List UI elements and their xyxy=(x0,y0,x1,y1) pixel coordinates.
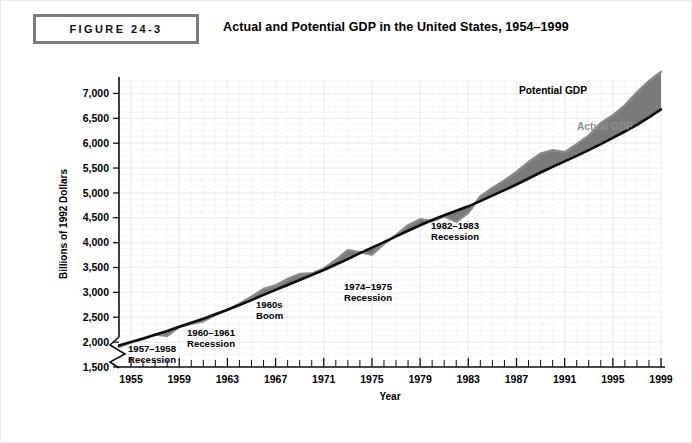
actual-gdp-series-label: Actual GDP xyxy=(577,121,633,132)
svg-text:1971: 1971 xyxy=(312,373,336,385)
svg-text:1,500: 1,500 xyxy=(83,361,109,373)
annotation-1957-1958-recession: 1957–1958 xyxy=(128,343,177,354)
gdp-line-chart: 1,5002,0002,5003,0003,5004,0004,5005,000… xyxy=(1,1,692,443)
svg-text:2,000: 2,000 xyxy=(83,336,109,348)
x-axis-title: Year xyxy=(379,391,400,402)
annotation-1960s-boom: 1960s xyxy=(256,299,283,310)
svg-text:4,500: 4,500 xyxy=(83,211,109,223)
annotation-1974-1975-recession: 1974–1975 xyxy=(344,281,393,292)
svg-text:5,000: 5,000 xyxy=(83,187,109,199)
svg-text:1975: 1975 xyxy=(360,373,384,385)
svg-text:6,000: 6,000 xyxy=(83,137,109,149)
svg-text:1999: 1999 xyxy=(649,373,673,385)
svg-text:3,000: 3,000 xyxy=(83,286,109,298)
y-axis-title: Billions of 1992 Dollars xyxy=(58,169,69,279)
y-axis xyxy=(110,77,125,368)
svg-text:7,000: 7,000 xyxy=(83,87,109,99)
gdp-gap-area xyxy=(119,72,661,347)
x-tick-labels: 1955195919631967197119751979198319871991… xyxy=(119,373,672,385)
svg-text:Boom: Boom xyxy=(256,310,283,321)
annotation-1982-1983-recession: 1982–1983 xyxy=(431,220,479,231)
svg-text:6,500: 6,500 xyxy=(83,112,109,124)
x-axis xyxy=(117,358,665,367)
svg-text:1979: 1979 xyxy=(408,373,432,385)
annotation-1960-1961-recession: 1960–1961 xyxy=(187,327,236,338)
svg-text:1991: 1991 xyxy=(553,373,577,385)
svg-text:4,000: 4,000 xyxy=(83,236,109,248)
svg-text:2,500: 2,500 xyxy=(83,311,109,323)
svg-text:1995: 1995 xyxy=(601,373,625,385)
svg-text:5,500: 5,500 xyxy=(83,162,109,174)
svg-text:1963: 1963 xyxy=(216,373,240,385)
svg-text:1983: 1983 xyxy=(457,373,481,385)
y-tick-labels: 1,5002,0002,5003,0003,5004,0004,5005,000… xyxy=(83,87,109,373)
chart-plot-area: 1,5002,0002,5003,0003,5004,0004,5005,000… xyxy=(1,1,692,443)
svg-text:Recession: Recession xyxy=(431,231,479,242)
svg-text:1959: 1959 xyxy=(168,373,192,385)
svg-text:1967: 1967 xyxy=(264,373,288,385)
svg-text:1955: 1955 xyxy=(119,373,143,385)
potential-gdp-series-label: Potential GDP xyxy=(519,85,587,96)
actual-gdp-line xyxy=(119,72,661,347)
figure-page: FIGURE 24-3 Actual and Potential GDP in … xyxy=(0,0,692,443)
svg-text:3,500: 3,500 xyxy=(83,261,109,273)
svg-text:Recession: Recession xyxy=(187,338,235,349)
svg-text:Recession: Recession xyxy=(128,354,176,365)
svg-text:1987: 1987 xyxy=(505,373,529,385)
svg-text:Recession: Recession xyxy=(344,292,392,303)
